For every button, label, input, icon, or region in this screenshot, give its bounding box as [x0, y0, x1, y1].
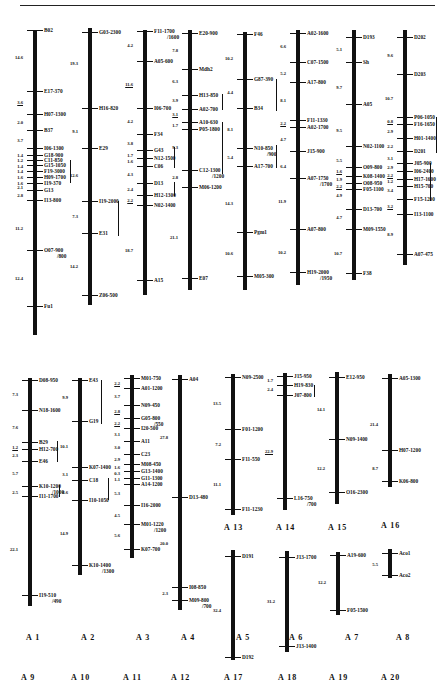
marker-tick: [346, 189, 362, 190]
distance-label: 2.2: [375, 173, 393, 178]
marker-tick: [397, 117, 413, 118]
marker-label: A07-800: [307, 226, 326, 232]
distance-label: 2.2: [375, 144, 393, 149]
marker-tick: [329, 492, 345, 493]
distance-label: 3.7: [102, 394, 120, 399]
marker-tick: [27, 148, 43, 149]
group-label: A 13: [224, 523, 243, 532]
marker-label: H17-1600: [414, 176, 436, 182]
marker-tick: [182, 33, 198, 34]
cluster-bracket: [430, 163, 431, 201]
marker-tick: [124, 388, 140, 389]
marker-tick: [290, 178, 306, 179]
marker-tick: [237, 34, 253, 35]
marker-label: H12-1300: [154, 192, 176, 198]
marker-label: D13: [154, 180, 163, 186]
chromosome-bar: [28, 378, 32, 606]
marker-tick: [124, 418, 140, 419]
marker-tick: [382, 575, 398, 576]
marker-label: N18-1600: [39, 407, 60, 413]
distance-label: 1.4: [5, 169, 23, 174]
marker-tick: [82, 233, 98, 234]
distance-label: 5.5: [324, 158, 342, 163]
marker-tick: [225, 556, 241, 557]
marker-label: I10-1050: [89, 497, 109, 503]
marker-label: A05-1300: [399, 375, 420, 381]
distance-label: 8.1: [268, 98, 286, 103]
marker-label: I08-850: [189, 584, 206, 590]
marker-tick: [22, 595, 38, 596]
marker-label-alt: /490: [52, 598, 61, 604]
marker-label: J05-900: [414, 160, 432, 166]
distance-label: 2.9: [102, 457, 120, 462]
marker-tick: [279, 646, 295, 647]
chromosome-bar: [352, 30, 356, 280]
marker-tick: [277, 498, 293, 499]
marker-label-alt: /1300: [102, 568, 114, 574]
distance-label: 21.4: [360, 422, 378, 427]
marker-tick: [382, 378, 398, 379]
marker-label: E07: [199, 275, 208, 281]
marker-tick: [346, 183, 362, 184]
distance-label: 1.6: [102, 465, 120, 470]
chromosome-bar: [336, 552, 340, 615]
marker-tick: [137, 108, 153, 109]
marker-tick: [382, 553, 398, 554]
distance-label: 20.0: [150, 541, 168, 546]
group-label: A 15: [328, 523, 347, 532]
distance-label: 11.6: [115, 82, 133, 87]
group-label: A 4: [181, 633, 195, 642]
marker-tick: [397, 186, 413, 187]
marker-tick: [124, 454, 140, 455]
chromosome-bar: [231, 550, 235, 660]
marker-tick: [172, 497, 188, 498]
marker-label: K06-800: [399, 478, 418, 484]
distance-label: 9.1: [60, 129, 78, 134]
marker-tick: [124, 464, 140, 465]
marker-tick: [182, 278, 198, 279]
distance-label: 22.9: [255, 449, 273, 454]
distance-label: 5.6: [102, 533, 120, 538]
marker-label: A07-475: [414, 251, 433, 257]
marker-label: D191: [242, 553, 254, 559]
chromosome-bar: [296, 30, 300, 285]
distance-label: 14.3: [215, 201, 233, 206]
distance-label: 5.4: [215, 155, 233, 160]
cluster-bracket: [174, 182, 175, 196]
distance-label: 3.6: [5, 100, 23, 105]
distance-label: 6.6: [50, 490, 68, 495]
marker-tick: [397, 124, 413, 125]
marker-tick: [27, 200, 43, 201]
distance-label: 2.8: [102, 409, 120, 414]
marker-tick: [137, 150, 153, 151]
marker-tick: [172, 600, 188, 601]
distance-label: 0.8: [375, 119, 393, 124]
marker-label: M05-300: [254, 273, 274, 279]
distance-label: 14.9: [50, 531, 68, 536]
marker-tick: [124, 441, 140, 442]
distance-label: 5.1: [324, 47, 342, 52]
marker-tick: [346, 146, 362, 147]
marker-label: C18: [89, 477, 98, 483]
marker-label: I06-700: [154, 105, 171, 111]
group-label: A 1: [26, 633, 40, 642]
marker-tick: [27, 177, 43, 178]
group-label: A 17: [224, 673, 243, 682]
distance-label: 10.7: [324, 251, 342, 256]
distance-label: 9.5: [324, 128, 342, 133]
marker-label: F11-1330: [307, 117, 328, 123]
chromosome-bar: [143, 30, 147, 295]
chromosome-bar: [243, 32, 247, 290]
distance-label: 5.3: [102, 491, 120, 496]
distance-label: 10.6: [215, 251, 233, 256]
distance-label: 2.2: [324, 184, 342, 189]
marker-tick: [182, 69, 198, 70]
marker-tick: [397, 151, 413, 152]
marker-label: J13-1400: [296, 643, 316, 649]
marker-tick: [27, 171, 43, 172]
distance-label: 13.5: [203, 401, 221, 406]
marker-tick: [182, 122, 198, 123]
distance-label: 18.7: [115, 248, 133, 253]
marker-tick: [124, 471, 140, 472]
marker-label: H19-830: [294, 382, 313, 388]
